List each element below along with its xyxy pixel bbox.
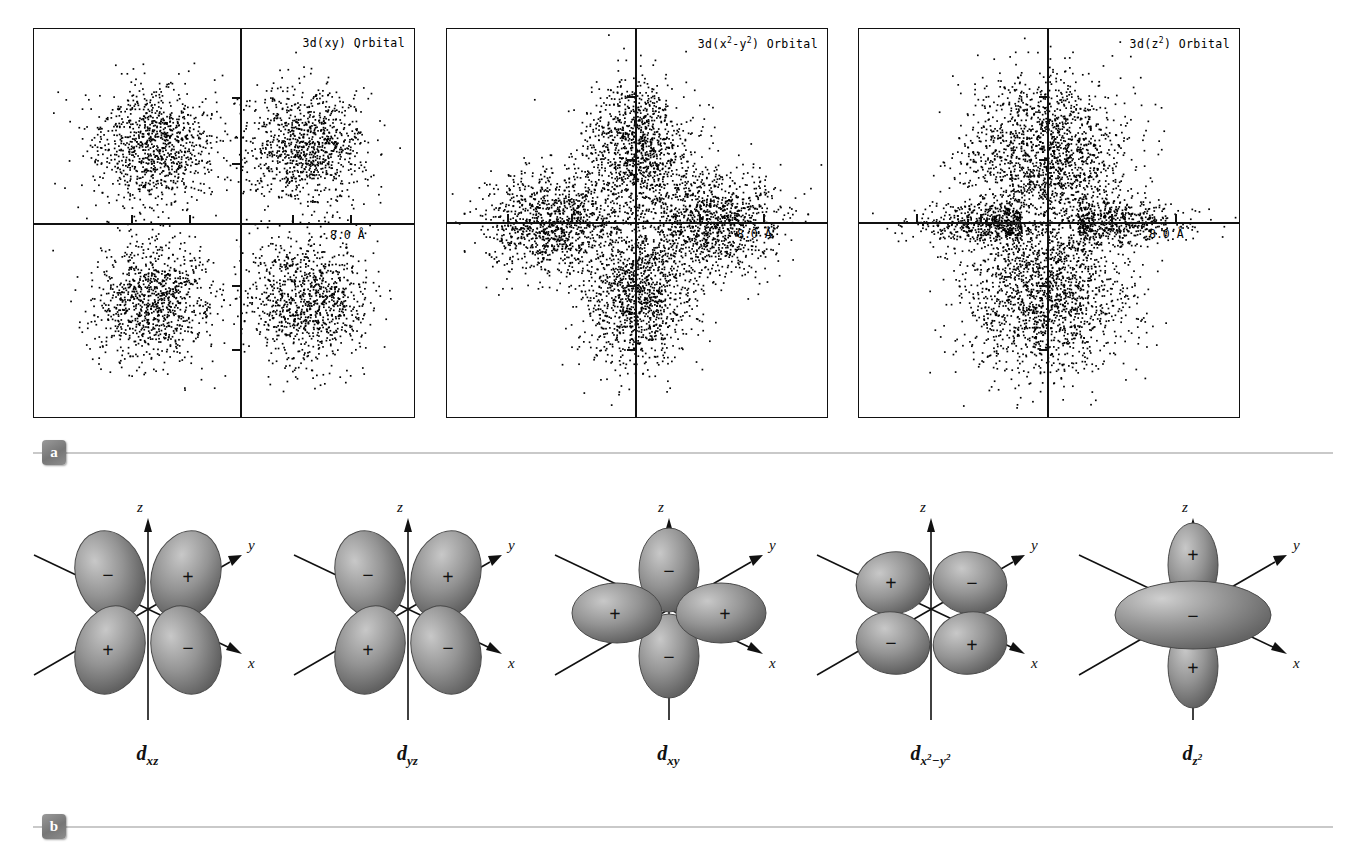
density-plot-3d-xy: 3d(xy) Orbital 8.0 Å (33, 28, 415, 418)
axis-tick (1111, 214, 1113, 223)
orbital-diagram-dz2: + + − z y x dz2 (1065, 470, 1320, 800)
svg-text:+: + (1187, 657, 1198, 679)
svg-text:−: − (102, 564, 113, 586)
section-rule-a (33, 452, 1333, 454)
orbital-diagram-dyz: − + + − z y x dyz (280, 470, 535, 800)
axis-tick (292, 215, 294, 224)
axis-tick (627, 96, 636, 98)
axis-tick (232, 163, 241, 165)
axis-tick (232, 285, 241, 287)
orbital-label-dxz: dxz (20, 742, 275, 769)
axis-tick (627, 159, 636, 161)
svg-text:−: − (182, 637, 193, 659)
dxy-drawing: − − + + z y x (541, 470, 796, 740)
panel-a-density-plots: 3d(xy) Orbital 8.0 Å 3d(x2-y2) Orbital (0, 0, 1365, 410)
svg-text:+: + (362, 639, 373, 661)
svg-text:−: − (663, 646, 674, 668)
axis-tick (189, 215, 191, 224)
panel-badge-a: a (42, 440, 66, 465)
panel-b-orbital-shapes: − + + − z y x dxz − + (0, 470, 1365, 820)
orbital-label-dx2y2: dx2−y2 (803, 742, 1058, 769)
orbital-label-dyz: dyz (280, 742, 535, 769)
axis-label-y: y (767, 537, 776, 553)
axis-label-z: z (919, 499, 926, 515)
axis-tick (232, 97, 241, 99)
axis-label-x: x (1030, 655, 1038, 671)
orbital-diagram-dx2y2: + − − + z y x dx2−y2 (803, 470, 1058, 800)
axis-tick (232, 349, 241, 351)
orbital-label-dxy: dxy (541, 742, 796, 769)
axis-tick (627, 349, 636, 351)
axis-tick (699, 214, 701, 223)
scale-label: 8.0 Å (330, 228, 365, 242)
orbital-diagram-dxy: − − + + z y x dxy (541, 470, 796, 800)
svg-text:+: + (719, 603, 730, 625)
axis-tick (916, 214, 918, 223)
density-plot-3d-z2: 3d(z2) Orbital 8.0 Å (858, 28, 1240, 418)
svg-text:+: + (442, 566, 453, 588)
axis-tick (627, 285, 636, 287)
panel-badge-b: b (42, 814, 66, 839)
dz2-drawing: + + − z y x (1065, 470, 1320, 740)
axis-tick (1039, 159, 1048, 161)
axis-label-z: z (657, 499, 664, 515)
scale-label: 8.0 Å (1149, 227, 1184, 241)
dxz-drawing: − + + − z y x (20, 470, 275, 740)
density-plot-3d-x2-y2: 3d(x2-y2) Orbital 8.0 Å (446, 28, 828, 418)
axis-tick (1039, 285, 1048, 287)
svg-text:−: − (966, 572, 977, 594)
section-rule-b (33, 826, 1333, 828)
axis-label-y: y (1029, 537, 1038, 553)
axis-tick (571, 214, 573, 223)
axis-tick (1039, 96, 1048, 98)
scale-label: 8.0 Å (737, 227, 772, 241)
svg-text:−: − (663, 560, 674, 582)
axis-label-x: x (1292, 655, 1300, 671)
axis-label-y: y (1291, 537, 1300, 553)
svg-text:−: − (442, 637, 453, 659)
axis-tick (1039, 349, 1048, 351)
axis-tick (1175, 214, 1177, 223)
axis-label-x: x (507, 655, 515, 671)
axis-label-x: x (247, 655, 255, 671)
orbital-label-dz2: dz2 (1065, 742, 1320, 769)
svg-text:+: + (1187, 544, 1198, 566)
axis-tick (980, 214, 982, 223)
dx2y2-drawing: + − − + z y x (803, 470, 1058, 740)
horizontal-axis (447, 222, 827, 224)
axis-tick (507, 214, 509, 223)
axis-label-z: z (396, 499, 403, 515)
svg-text:+: + (966, 634, 977, 656)
svg-text:+: + (885, 572, 896, 594)
orbital-diagram-dxz: − + + − z y x dxz (20, 470, 275, 800)
horizontal-axis (34, 223, 414, 225)
axis-tick (763, 214, 765, 223)
axis-label-y: y (246, 537, 255, 553)
axis-label-y: y (506, 537, 515, 553)
axis-tick (350, 215, 352, 224)
svg-text:+: + (182, 566, 193, 588)
svg-text:+: + (609, 603, 620, 625)
axis-label-x: x (768, 655, 776, 671)
svg-text:−: − (362, 564, 373, 586)
svg-text:−: − (885, 632, 896, 654)
axis-label-z: z (136, 499, 143, 515)
svg-text:−: − (1187, 605, 1198, 627)
dyz-drawing: − + + − z y x (280, 470, 535, 740)
axis-tick (131, 215, 133, 224)
axis-label-z: z (1181, 499, 1188, 515)
svg-text:+: + (102, 639, 113, 661)
